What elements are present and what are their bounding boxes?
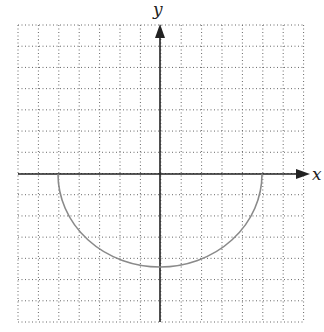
y-axis-label: y bbox=[152, 0, 163, 19]
y-axis-arrow-icon bbox=[155, 24, 165, 38]
x-axis-arrow-icon bbox=[296, 169, 310, 179]
x-axis-label: x bbox=[312, 164, 322, 184]
coordinate-plane: x y bbox=[0, 0, 324, 332]
